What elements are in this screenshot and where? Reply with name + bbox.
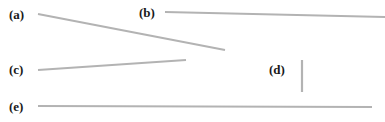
- segment-label-e: (e): [9, 100, 23, 113]
- segment-c: [38, 60, 186, 70]
- segment-e: [38, 106, 372, 107]
- segment-a: [38, 14, 225, 50]
- figure-canvas: [0, 0, 385, 122]
- segment-label-d: (d): [269, 63, 285, 76]
- segment-label-a: (a): [9, 8, 24, 21]
- segment-label-b: (b): [139, 6, 155, 19]
- line-segments-figure: (a) (b) (c) (d) (e): [0, 0, 385, 122]
- segment-label-c: (c): [9, 63, 23, 76]
- segment-b: [165, 12, 385, 17]
